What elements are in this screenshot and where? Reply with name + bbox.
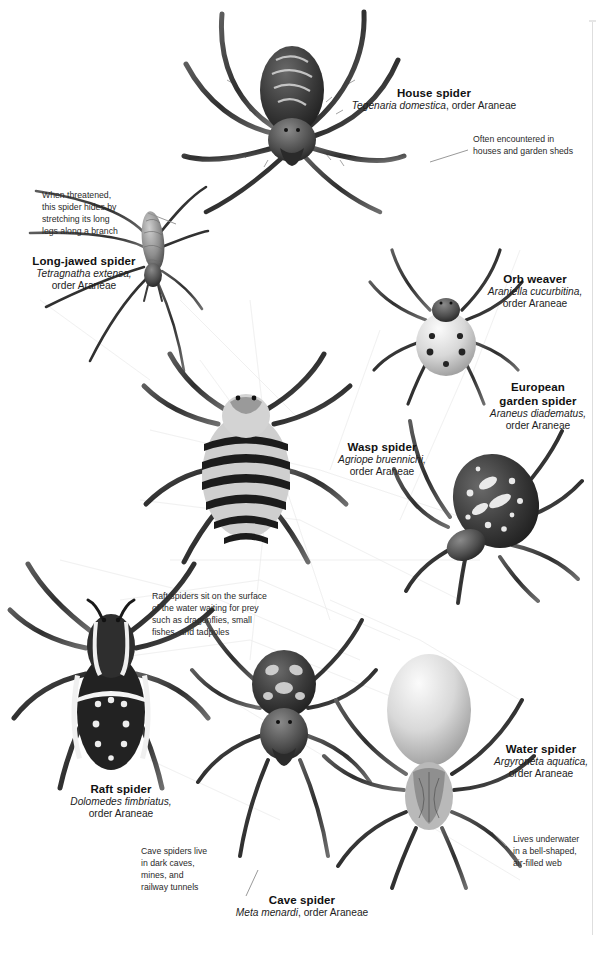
label-european-garden-spider: European garden spider Araneus diadematu… [482,380,594,433]
european-garden-spider-common-name-line2: garden spider [482,394,594,408]
label-wasp-spider: Wasp spider Agriope bruennichi, order Ar… [318,440,446,479]
wasp-spider-common-name: Wasp spider [318,440,446,454]
long-jawed-spider-common-name: Long-jawed spider [14,254,154,268]
raft-spider-order: order Araneae [46,808,196,820]
annotation-cave-spider: Cave spiders live in dark caves, mines, … [141,845,241,893]
label-cave-spider: Cave spider Meta menardi, order Araneae [212,893,392,919]
raft-spider-common-name: Raft spider [46,782,196,796]
orb-weaver-order: order Araneae [478,298,592,310]
water-spider-order: order Araneae [488,768,594,780]
annotation-house-spider: Often encountered in houses and garden s… [473,133,593,157]
annotation-raft-spider: Raft spiders sit on the surface of the w… [152,590,300,638]
long-jawed-spider-order: order Araneae [14,280,154,292]
label-water-spider: Water spider Argyroneta aquatica, order … [488,742,594,781]
water-spider-scientific-name: Argyroneta aquatica, [488,756,594,768]
wasp-spider-order: order Araneae [318,466,446,478]
european-garden-spider-common-name-line1: European [482,380,594,394]
raft-spider-scientific-name: Dolomedes fimbriatus, [46,796,196,808]
water-spider-common-name: Water spider [488,742,594,756]
annotation-long-jawed-spider: When threatened, this spider hides by st… [42,189,154,237]
label-raft-spider: Raft spider Dolomedes fimbriatus, order … [46,782,196,821]
cave-spider-scientific-name: Meta menardi, order Araneae [212,907,392,919]
page-margin-rule [592,20,593,935]
house-spider-common-name: House spider [318,86,550,100]
label-orb-weaver: Orb weaver Araniella cucurbitina, order … [478,272,592,311]
orb-weaver-scientific-name: Araniella cucurbitina, [478,286,592,298]
house-spider-scientific-name: Tegenaria domestica, order Araneae [318,100,550,112]
spider-plate: House spider Tegenaria domestica, order … [0,0,598,963]
label-house-spider: House spider Tegenaria domestica, order … [318,86,550,112]
cave-spider-common-name: Cave spider [212,893,392,907]
european-garden-spider-order: order Araneae [482,420,594,432]
annotation-water-spider: Lives underwater in a bell-shaped, air-f… [513,833,598,869]
label-long-jawed-spider: Long-jawed spider Tetragnatha extensa, o… [14,254,154,293]
european-garden-spider-scientific-name: Araneus diadematus, [482,408,594,420]
long-jawed-spider-scientific-name: Tetragnatha extensa, [14,268,154,280]
wasp-spider-scientific-name: Agriope bruennichi, [318,454,446,466]
orb-weaver-common-name: Orb weaver [478,272,592,286]
page-margin-rule-cap [589,20,596,22]
